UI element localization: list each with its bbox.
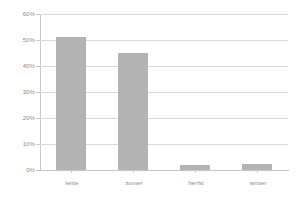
y-tick-label-20: 20% [23, 115, 35, 121]
x-tick-mark-herfst [195, 170, 196, 173]
bar-chart: 60% 50% 40% 30% 20% 10% 0% lente zomer h… [0, 0, 300, 201]
x-tick-mark-zomer [133, 170, 134, 173]
x-axis-line [40, 170, 289, 171]
x-axis-tick-labels: lente zomer herfst winter [40, 176, 288, 196]
y-tick-label-50: 50% [23, 37, 35, 43]
y-tick-label-60: 60% [23, 11, 35, 17]
bar-lente [56, 37, 86, 170]
gridline-60 [40, 14, 288, 15]
plot-area [40, 14, 288, 170]
bar-zomer [118, 53, 148, 170]
x-tick-label-zomer: zomer [103, 180, 165, 186]
x-tick-mark-winter [257, 170, 258, 173]
y-tick-label-30: 30% [23, 89, 35, 95]
y-tick-label-0: 0% [26, 167, 35, 173]
x-tick-mark-lente [71, 170, 72, 173]
x-tick-label-winter: winter [227, 180, 289, 186]
y-tick-label-10: 10% [23, 141, 35, 147]
x-tick-label-lente: lente [41, 180, 103, 186]
y-axis-tick-labels: 60% 50% 40% 30% 20% 10% 0% [0, 0, 35, 201]
y-tick-label-40: 40% [23, 63, 35, 69]
x-tick-label-herfst: herfst [165, 180, 227, 186]
